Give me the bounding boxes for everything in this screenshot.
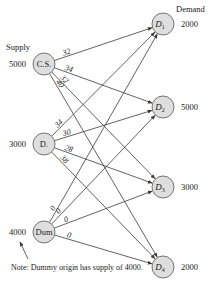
supply-value: 3000 xyxy=(9,139,26,149)
source-node-dummy: Dum 4000 xyxy=(9,221,55,243)
source-node-cs: C.S. 5000 xyxy=(9,53,55,75)
supply-value: 4000 xyxy=(9,227,26,237)
edge-cost-label: 38 xyxy=(58,152,71,165)
edge-cost-label: 0 xyxy=(63,215,70,225)
destination-node-d1: D1 2000 xyxy=(152,13,198,35)
edge-cost-label: 34 xyxy=(52,117,65,130)
node-label: Dum xyxy=(36,227,53,237)
edge-cost-label: 30 xyxy=(61,127,72,138)
demand-value: 2000 xyxy=(181,19,198,29)
transportation-network-diagram: 32343240343028380000 Supply Demand C.S. … xyxy=(0,0,213,286)
edge-cost-label: 32 xyxy=(60,47,71,58)
supply-value: 5000 xyxy=(9,59,26,69)
node-label: C.S. xyxy=(37,59,52,69)
destination-node-d3: D3 3000 xyxy=(152,176,198,198)
demand-value: 3000 xyxy=(181,182,198,192)
supply-header: Supply xyxy=(6,42,31,52)
source-node-d: D. 3000 xyxy=(9,133,55,155)
destination-node-d2: D2 5000 xyxy=(152,96,198,118)
demand-value: 5000 xyxy=(181,102,198,112)
edge-d-d4 xyxy=(52,152,155,259)
edge-cost-label: 0 xyxy=(66,230,72,240)
edge-cost-label: 0 xyxy=(54,207,63,216)
note-arrow-icon xyxy=(20,242,28,259)
demand-value: 2000 xyxy=(181,262,198,272)
destination-node-d4: D4 2000 xyxy=(152,256,198,278)
node-label: D. xyxy=(40,139,48,149)
dummy-origin-note: Note: Dummy origin has supply of 4000. xyxy=(11,263,143,272)
demand-header: Demand xyxy=(176,4,206,14)
